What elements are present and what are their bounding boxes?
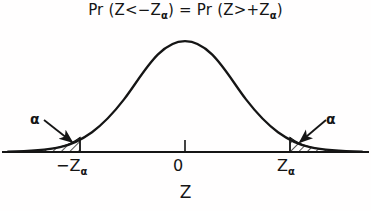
right-tail-alpha-label: α — [326, 112, 336, 126]
normal-distribution-figure: Pr (Z<−Zα) = Pr (Z>+Zα) α α −Zα 0 — [0, 0, 371, 211]
axis-tick-label-positive-critical: Zα — [277, 158, 295, 177]
zero-base: 0 — [173, 156, 183, 175]
posz-subscript: α — [288, 166, 295, 177]
negz-subscript: α — [80, 166, 87, 177]
right-alpha-arrow — [300, 120, 326, 142]
left-alpha-arrow — [44, 120, 72, 142]
plot-canvas — [0, 0, 371, 211]
negz-base: −Z — [56, 156, 80, 175]
left-tail-alpha-label: α — [30, 112, 40, 126]
x-axis-variable-label: Z — [0, 184, 371, 201]
axis-tick-label-origin: 0 — [173, 158, 183, 174]
axis-tick-label-negative-critical: −Zα — [56, 158, 87, 177]
posz-base: Z — [277, 156, 288, 175]
